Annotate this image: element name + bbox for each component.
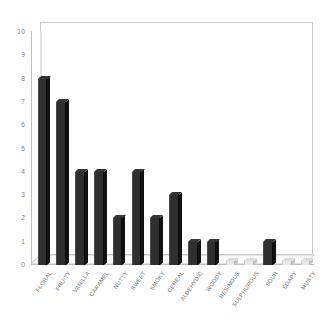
bar-side-face — [66, 99, 69, 265]
x-tick-label: CARAMEL — [88, 270, 110, 297]
x-tick-label: CEREAL — [166, 270, 185, 293]
bar-body — [188, 242, 198, 265]
y-tick-label: 2 — [21, 214, 25, 221]
bar-side-face — [216, 239, 219, 265]
y-tick-label: 9 — [21, 51, 25, 58]
bar-side-face — [160, 216, 163, 265]
bar-front-face — [150, 218, 160, 265]
y-tick-label: 7 — [21, 97, 25, 104]
bar-front-face — [132, 172, 142, 265]
y-tick-label: 3 — [21, 191, 25, 198]
bar-body — [263, 242, 273, 265]
bar-side-face — [273, 239, 276, 265]
bar — [75, 172, 85, 265]
bar-body — [207, 242, 217, 265]
bar-front-face — [263, 242, 273, 265]
x-tick-label: WOODY — [204, 270, 222, 292]
y-tick-label: 10 — [17, 28, 25, 35]
x-tick-label: SWEET — [130, 270, 147, 291]
bar-front-face — [113, 218, 123, 265]
bar — [188, 242, 198, 265]
bar-front-face — [188, 242, 198, 265]
y-tick-label: 8 — [21, 74, 25, 81]
y-tick-label: 6 — [21, 121, 25, 128]
bar-front-face — [207, 242, 217, 265]
y-tick-label: 1 — [21, 237, 25, 244]
bar-body — [75, 172, 85, 265]
bar-front-face — [75, 172, 85, 265]
x-tick-label: FLORAL — [35, 270, 53, 293]
plot-area — [31, 31, 313, 264]
bar-chart: 109876543210 FLORALFRUITYVANILLACARAMELN… — [0, 0, 327, 327]
bar-front-face — [56, 102, 66, 265]
bar — [38, 79, 48, 265]
x-tick-label: NUTTY — [112, 270, 128, 290]
bar — [150, 218, 160, 265]
bar-side-face — [179, 193, 182, 265]
x-tick-label: SOUR — [264, 270, 279, 288]
bars-layer — [31, 31, 313, 265]
x-tick-label: FRUITY — [55, 270, 73, 291]
x-tick-label: MUSTY — [300, 270, 317, 291]
bar — [132, 172, 142, 265]
bar-side-face — [122, 216, 125, 265]
y-tick-label: 0 — [21, 261, 25, 268]
bar-side-face — [198, 239, 201, 265]
bar-front-face — [169, 195, 179, 265]
bar — [263, 242, 273, 265]
bar-body — [113, 218, 123, 265]
bar-body — [94, 172, 104, 265]
bar-body — [169, 195, 179, 265]
bar-body — [150, 218, 160, 265]
bar-body — [132, 172, 142, 265]
bar-side-face — [47, 76, 50, 265]
bar-side-face — [85, 169, 88, 265]
x-tick-label: SOAPY — [281, 270, 298, 290]
y-tick-label: 5 — [21, 144, 25, 151]
bar-side-face — [141, 169, 144, 265]
x-tick-label: VANILLA — [72, 270, 91, 294]
bar — [56, 102, 66, 265]
bar-front-face — [38, 79, 48, 265]
bar-body — [38, 79, 48, 265]
bar-body — [56, 102, 66, 265]
x-axis: FLORALFRUITYVANILLACARAMELNUTTYSWEETSMOK… — [31, 264, 313, 327]
bar — [94, 172, 104, 265]
bar-side-face — [104, 169, 107, 265]
bar — [169, 195, 179, 265]
bar — [207, 242, 217, 265]
y-axis: 109876543210 — [0, 0, 31, 327]
x-tick-label: SMOKY — [149, 270, 166, 291]
bar-front-face — [94, 172, 104, 265]
y-tick-label: 4 — [21, 167, 25, 174]
bar — [113, 218, 123, 265]
